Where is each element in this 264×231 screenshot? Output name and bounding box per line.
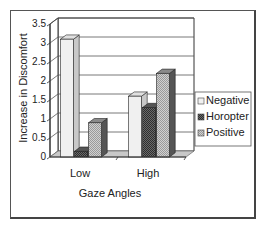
x-axis-title: Gaze Angles [79,187,142,199]
bar-low-negative [61,35,80,157]
bar-side [102,119,108,157]
legend-swatch-positive [198,130,204,136]
y-axis-title: Increase in Discomfort [17,33,29,142]
bar-low-positive [89,119,108,157]
y-tick-label: 2 [40,75,46,86]
y-tick-label: 1 [40,113,46,124]
y-tick-label: 3.5 [32,18,46,29]
legend-label-horopter: Horopter [206,110,249,122]
legend-swatch-horopter [198,114,204,120]
y-tick-label: 3 [40,37,46,48]
y-tick-label: 2.5 [32,56,46,67]
y-tick-label: 0.5 [32,132,46,143]
bar-front [61,39,74,157]
bar-front [89,123,102,157]
bar-front [143,108,156,157]
legend-label-negative: Negative [206,94,249,106]
y-tick-label: 1.5 [32,94,46,105]
legend: NegativeHoropterPositive [195,92,251,146]
bar-front [75,151,88,157]
x-tick-label-low: Low [70,167,90,179]
x-tick-label-high: High [137,167,160,179]
y-tick-label: 0 [40,151,46,162]
bar-side [74,35,80,157]
legend-label-positive: Positive [206,126,245,138]
bar-front [129,96,142,157]
bar-side [170,69,176,157]
bar-front [157,73,170,157]
chart: 00.511.522.533.5LowHigh Increase in Disc… [0,0,264,231]
y-tick-mark [47,157,50,159]
bar-high-positive [157,69,176,157]
legend-swatch-negative [198,98,204,104]
side-wall [50,18,58,157]
